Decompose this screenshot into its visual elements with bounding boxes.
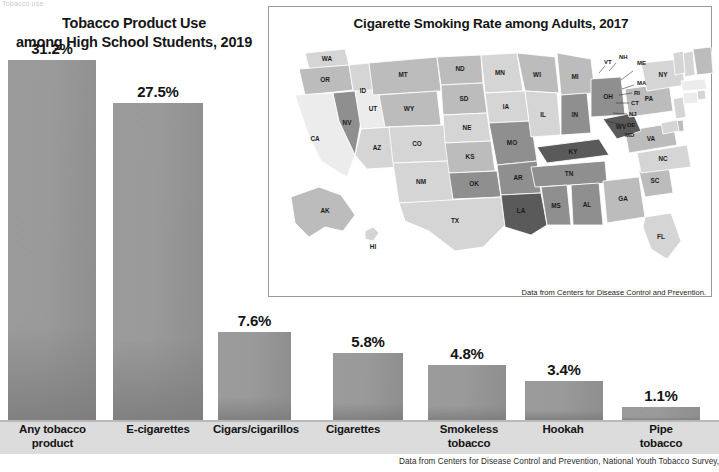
state-label-FL: FL [657, 233, 665, 240]
state-callout-label-MD: MD [625, 132, 635, 138]
state-label-GA: GA [618, 195, 628, 202]
state-label-WA: WA [322, 55, 333, 62]
state-label-VA: VA [647, 135, 656, 142]
bar-e-cigarettes: 27.5% [113, 103, 203, 420]
bar-fill [428, 365, 506, 420]
state-label-OR: OR [320, 76, 330, 83]
state-label-MT: MT [398, 71, 407, 78]
state-label-PA: PA [645, 95, 654, 102]
state-MD [661, 120, 679, 134]
state-CT [683, 92, 698, 104]
state-label-MI: MI [571, 73, 578, 80]
bar-value-label: 7.6% [238, 312, 271, 329]
state-label-IL: IL [540, 111, 546, 118]
category-label-line: Any tobacco [0, 423, 105, 437]
state-callout-label-RI: RI [634, 90, 640, 96]
state-label-NC: NC [658, 155, 668, 162]
state-label-SD: SD [460, 95, 469, 102]
state-callout-label-CT: CT [631, 100, 639, 106]
category-label-any-tobacco-product: Any tobaccoproduct [0, 423, 105, 450]
category-label-line: Cigars/cigarillos [210, 423, 302, 437]
state-callout-label-DE: DE [627, 122, 635, 128]
map-title: Cigarette Smoking Rate among Adults, 201… [269, 16, 713, 31]
category-label-e-cigarettes: E-cigarettes [104, 423, 212, 437]
state-label-NE: NE [463, 124, 473, 131]
state-callout-label-MA: MA [637, 80, 647, 86]
map-inset-panel: Cigarette Smoking Rate among Adults, 201… [268, 6, 712, 297]
category-label-line: tobacco [615, 437, 707, 451]
state-label-MO: MO [507, 139, 517, 146]
category-label-line: Smokeless [420, 423, 518, 437]
category-label-smokeless-tobacco: Smokelesstobacco [420, 423, 518, 450]
category-label-cigars-cigarillos: Cigars/cigarillos [210, 423, 302, 437]
state-HI [365, 227, 379, 241]
us-choropleth-map: WAORCAIDNVUTAZNMMTWYCONDSDNEKSOKTXMNIAMO… [269, 35, 713, 270]
bar-fill [622, 407, 700, 420]
state-label-CA: CA [310, 135, 320, 142]
map-source: Data from Centers for Disease Control an… [269, 288, 706, 297]
bar-any-tobacco-product: 31.2% [8, 60, 96, 420]
state-label-TX: TX [451, 217, 460, 224]
state-label-OH: OH [603, 93, 613, 100]
bar-value-label: 1.1% [644, 387, 677, 404]
bar-value-label: 4.8% [450, 345, 483, 362]
category-label-line: product [0, 437, 105, 451]
bar-chart-source: Data from Centers for Disease Control an… [399, 457, 717, 466]
state-label-MN: MN [495, 69, 505, 76]
bar-fill [218, 332, 291, 420]
state-label-UT: UT [369, 105, 378, 112]
state-label-HI: HI [370, 243, 377, 250]
bar-smokeless-tobacco: 4.8% [428, 365, 506, 420]
state-label-TN: TN [565, 170, 574, 177]
bar-value-label: 31.2% [31, 40, 73, 57]
bar-cigarettes: 5.8% [333, 353, 403, 420]
state-ME [693, 47, 713, 75]
state-label-IN: IN [572, 111, 579, 118]
state-callout-label-NH: NH [619, 54, 628, 60]
bar-fill [113, 103, 203, 420]
state-label-KY: KY [569, 148, 579, 155]
category-label-line: tobacco [420, 437, 518, 451]
state-label-NM: NM [416, 178, 426, 185]
bar-chart-title-line1: Tobacco Product Use [0, 14, 268, 33]
state-label-KS: KS [466, 153, 476, 160]
category-label-hookah: Hookah [518, 423, 608, 437]
state-LA [501, 193, 547, 235]
category-label-line: Pipe [615, 423, 707, 437]
state-MA [681, 79, 707, 91]
category-label-cigarettes: Cigarettes [305, 423, 401, 437]
category-label-line: Cigarettes [305, 423, 401, 437]
state-label-AR: AR [513, 174, 523, 181]
category-label-line: E-cigarettes [104, 423, 212, 437]
state-label-WI: WI [533, 71, 541, 78]
bar-fill [8, 60, 96, 420]
state-callout-label-NJ: NJ [629, 111, 637, 117]
bar-value-label: 3.4% [547, 361, 580, 378]
state-label-AL: AL [583, 201, 592, 208]
state-label-NY: NY [659, 71, 669, 78]
bar-cigars-cigarillos: 7.6% [218, 332, 291, 420]
bar-fill [525, 381, 603, 420]
state-label-ND: ND [455, 65, 465, 72]
state-label-ID: ID [360, 87, 367, 94]
category-label-line: Hookah [518, 423, 608, 437]
state-label-MS: MS [551, 202, 561, 209]
state-label-IA: IA [503, 103, 510, 110]
state-label-LA: LA [517, 207, 526, 214]
state-VT [673, 51, 685, 75]
map-svg: WAORCAIDNVUTAZNMMTWYCONDSDNEKSOKTXMNIAMO… [269, 35, 713, 270]
state-label-SC: SC [651, 177, 660, 184]
bar-fill [333, 353, 403, 420]
category-label-pipe-tobacco: Pipetobacco [615, 423, 707, 450]
infographic-root: Tobacco use Tobacco Product Use among Hi… [0, 0, 719, 472]
state-label-NV: NV [343, 119, 353, 126]
state-label-AK: AK [320, 207, 330, 214]
bar-pipe-tobacco: 1.1% [622, 407, 700, 420]
state-label-CO: CO [412, 140, 422, 147]
state-label-WY: WY [404, 105, 415, 112]
bar-value-label: 27.5% [137, 83, 179, 100]
state-callout-label-VT: VT [604, 59, 612, 65]
state-label-AZ: AZ [373, 144, 382, 151]
bar-hookah: 3.4% [525, 381, 603, 420]
state-TX [399, 197, 505, 251]
